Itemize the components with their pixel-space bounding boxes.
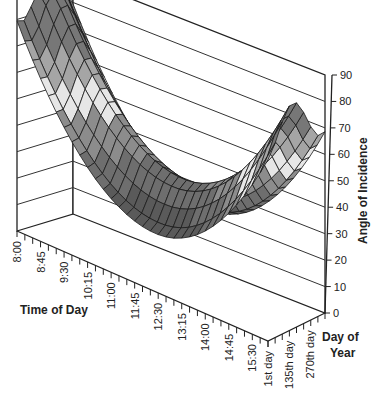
x-axis-title: Time of Day [20, 303, 88, 317]
z-axis-title: Angle of Incidence [356, 137, 370, 244]
x-tick-label: 14:00 [199, 324, 211, 352]
x-tick-label: 12:30 [152, 303, 164, 331]
z-tick-label: 30 [335, 228, 347, 240]
z-axis-line [325, 75, 332, 313]
z-tick-label: 20 [335, 254, 347, 266]
z-tick-label: 10 [334, 281, 346, 293]
x-tick-label: 8:45 [35, 251, 47, 272]
x-tick-label: 11:45 [129, 293, 141, 320]
surface-chart: 0102030405060708090 8:008:459:3010:1511:… [0, 0, 379, 393]
x-tick-label: 9:30 [58, 262, 70, 283]
x-tick-label: 10:15 [82, 272, 94, 300]
x-tick-label: 15:30 [246, 344, 258, 372]
x-tick-label: 8:00 [11, 241, 23, 262]
z-tick-label: 50 [337, 175, 349, 187]
z-tick-label: 60 [338, 148, 350, 160]
z-tick-label: 40 [336, 201, 348, 213]
y-axis-title-line1: Day of [322, 330, 360, 344]
y-tick-label: 1st day [262, 351, 274, 387]
y-axis-title-line2: Year [330, 346, 356, 360]
x-tick-label: 14:45 [223, 334, 235, 362]
z-tick-label: 80 [339, 95, 351, 107]
z-tick-label: 0 [333, 307, 339, 319]
x-tick-label: 11:00 [105, 282, 117, 309]
x-tick-label: 13:15 [176, 313, 188, 341]
z-tick-label: 90 [340, 69, 352, 81]
y-axis-ticks: 1st day135th day270th day [262, 313, 325, 389]
y-tick-label: 270th day [304, 330, 316, 379]
y-tick-label: 135th day [283, 340, 295, 389]
z-tick-label: 70 [338, 122, 350, 134]
